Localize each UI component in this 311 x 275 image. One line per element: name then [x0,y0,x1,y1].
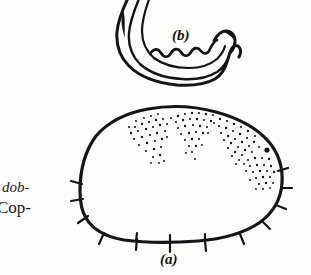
stipple-lobe-4 [243,157,275,190]
pigment-spot [264,147,269,152]
figure-page: dob- Cop- (b) (a) [0,0,311,275]
specimen-illustration [0,0,311,275]
hook-thick-accent [122,10,125,38]
margin-text-line-1: dob- [2,180,30,195]
oval-body-a [71,107,292,252]
seta [278,168,288,171]
figure-label-a: (a) [160,252,178,267]
marginal-setae [71,168,292,252]
margin-text-line-2: Cop- [0,199,31,216]
seta [276,205,286,209]
body-outline [80,107,282,243]
seta [240,234,244,244]
seta [136,233,137,241]
seta [99,233,104,244]
stipple-lobe-3 [213,118,260,165]
seta [262,221,270,229]
figure-label-b: (b) [172,28,190,43]
stipple-lobe-2 [170,112,214,160]
stipple-lobe-1 [128,113,168,164]
